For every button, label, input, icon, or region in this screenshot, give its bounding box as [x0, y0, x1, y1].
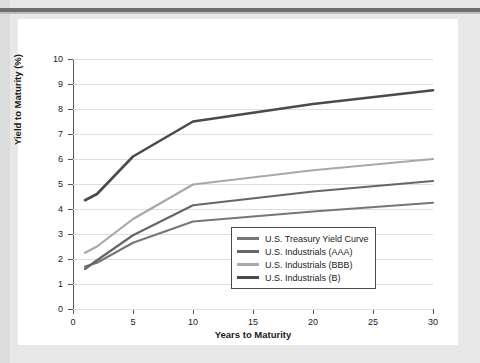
- y-tick-label-0: 0: [41, 305, 63, 314]
- chart-legend: U.S. Treasury Yield CurveU.S. Industrial…: [231, 227, 376, 289]
- y-axis-title: Yield to Maturity (%): [12, 54, 23, 145]
- legend-label: U.S. Treasury Yield Curve: [265, 234, 369, 244]
- x-axis-title: Years to Maturity: [73, 329, 433, 340]
- legend-swatch-line-icon: [237, 276, 259, 280]
- y-tick-label-8: 8: [41, 105, 63, 114]
- legend-item: U.S. Industrials (AAA): [237, 245, 369, 258]
- legend-item: U.S. Industrials (B): [237, 271, 369, 284]
- x-tick-label-30: 30: [418, 318, 448, 327]
- legend-label: U.S. Industrials (AAA): [265, 247, 353, 257]
- legend-label: U.S. Industrials (B): [265, 273, 341, 283]
- y-tick-label-9: 9: [41, 80, 63, 89]
- y-tick-label-5: 5: [41, 180, 63, 189]
- legend-label: U.S. Industrials (BBB): [265, 260, 353, 270]
- x-tick-mark-30: [433, 309, 434, 314]
- x-tick-label-15: 15: [238, 318, 268, 327]
- x-tick-label-0: 0: [58, 318, 88, 327]
- x-tick-label-20: 20: [298, 318, 328, 327]
- y-tick-label-10: 10: [41, 55, 63, 64]
- figure-card: Yield to Maturity (%) Years to Maturity …: [18, 19, 458, 345]
- x-tick-label-5: 5: [118, 318, 148, 327]
- x-tick-label-10: 10: [178, 318, 208, 327]
- legend-swatch-line-icon: [237, 237, 259, 240]
- page-left-margin-strip: [0, 0, 10, 363]
- y-tick-label-7: 7: [41, 130, 63, 139]
- series-line-3: [85, 90, 433, 200]
- x-tick-label-25: 25: [358, 318, 388, 327]
- y-tick-label-3: 3: [41, 230, 63, 239]
- y-tick-label-6: 6: [41, 155, 63, 164]
- y-tick-label-4: 4: [41, 205, 63, 214]
- legend-swatch-line-icon: [237, 250, 259, 253]
- legend-item: U.S. Treasury Yield Curve: [237, 232, 369, 245]
- legend-swatch-line-icon: [237, 263, 259, 266]
- y-tick-label-2: 2: [41, 255, 63, 264]
- gridline-y-0: [73, 309, 433, 310]
- top-rule-shadow: [0, 12, 480, 14]
- legend-item: U.S. Industrials (BBB): [237, 258, 369, 271]
- y-tick-label-1: 1: [41, 280, 63, 289]
